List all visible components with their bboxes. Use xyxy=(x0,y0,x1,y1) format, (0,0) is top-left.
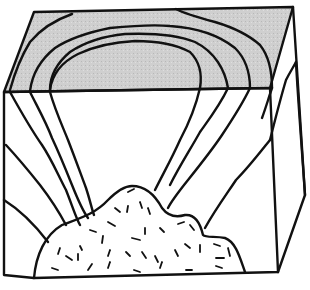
front-layer-left-3 xyxy=(30,92,88,218)
side-layer-2 xyxy=(296,62,305,195)
top-surface xyxy=(4,7,293,92)
front-layer-right-2 xyxy=(170,88,228,185)
front-layer-right-3 xyxy=(168,88,250,208)
front-layer-right-4 xyxy=(205,140,270,228)
front-layer-left-5 xyxy=(4,200,48,242)
block-diagram xyxy=(0,0,310,290)
front-layer-left-1 xyxy=(6,145,66,225)
front-layer-left-2 xyxy=(10,92,80,225)
front-layer-left-4 xyxy=(50,92,94,215)
intrusion xyxy=(34,186,245,278)
intrusion-outline xyxy=(34,186,245,278)
